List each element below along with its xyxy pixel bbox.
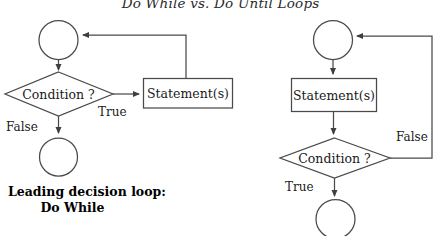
left-caption-line-2: Do While <box>0 200 145 215</box>
left-feedback-loop-edge <box>83 35 186 79</box>
left-branch-true-label: True <box>98 105 127 119</box>
left-caption-line-1: Leading decision loop: <box>8 184 166 199</box>
right-process-label: Statement(s) <box>292 88 376 103</box>
right-branch-false-label: False <box>396 130 428 144</box>
right-start-node <box>314 21 353 60</box>
flowchart-canvas: Do While vs. Do Until Loops <box>0 0 441 236</box>
left-end-node <box>40 138 78 176</box>
left-process-label: Statement(s) <box>144 86 232 101</box>
left-decision-label: Condition ? <box>8 87 109 102</box>
left-start-node <box>39 21 78 60</box>
right-decision-label: Condition ? <box>284 151 385 166</box>
left-branch-false-label: False <box>6 120 38 134</box>
right-end-node <box>316 200 355 237</box>
right-branch-true-label: True <box>285 180 314 194</box>
